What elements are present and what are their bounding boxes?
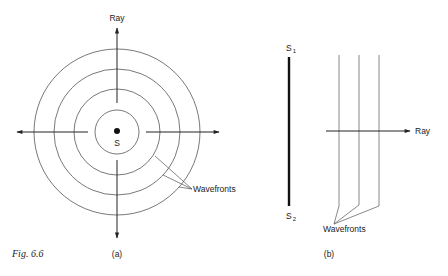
ray-label-b: Ray bbox=[415, 126, 431, 136]
panel-a: S Ray Wavefronts (a) bbox=[17, 13, 236, 259]
figure-caption: Fig. 6.6 bbox=[11, 248, 43, 259]
point-source-dot bbox=[114, 128, 120, 134]
plane-wavefront-3 bbox=[334, 55, 379, 224]
panel-b-label: (b) bbox=[324, 249, 335, 259]
panel-b: S1 S2 Ray Wavefronts (b) bbox=[286, 43, 431, 259]
wavefronts-label-a: Wavefronts bbox=[193, 184, 236, 194]
source-top-label: S1 bbox=[286, 43, 297, 54]
wavefront-figure: S Ray Wavefronts (a) Fig. 6.6 S1 S2 Ray … bbox=[0, 0, 448, 276]
source-bottom-label: S2 bbox=[286, 211, 297, 222]
panel-a-label: (a) bbox=[112, 249, 123, 259]
wavefronts-label-b: Wavefronts bbox=[323, 224, 366, 234]
plane-wavefronts bbox=[334, 55, 379, 224]
ray-label-a: Ray bbox=[109, 13, 125, 23]
wavefront-leader-lines-a bbox=[155, 156, 192, 189]
plane-wavefront-2 bbox=[334, 55, 359, 224]
source-label-s: S bbox=[114, 138, 120, 148]
plane-wavefront-1 bbox=[334, 55, 339, 224]
